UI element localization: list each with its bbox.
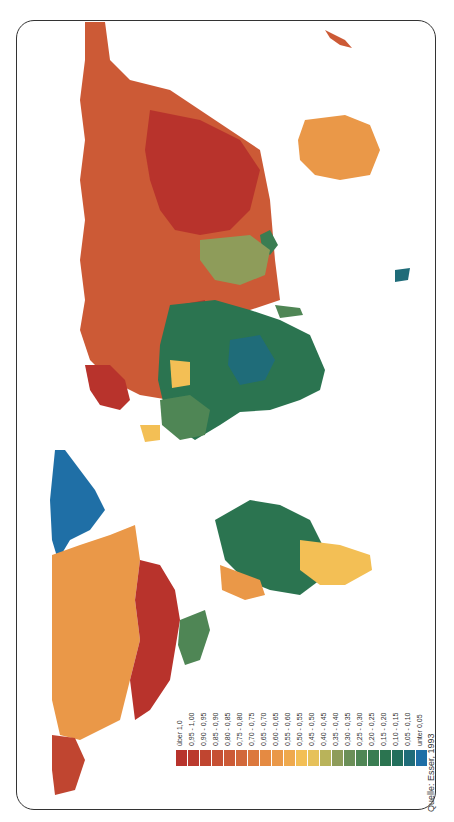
legend-swatch — [248, 750, 259, 766]
legend-swatch — [236, 750, 247, 766]
legend-label: 0,45 - 0,50 — [308, 713, 315, 746]
legend-swatch — [356, 750, 367, 766]
region-japan-islands — [325, 30, 352, 48]
legend-swatch — [284, 750, 295, 766]
legend-label: über 1,0 — [176, 720, 183, 746]
legend-swatch — [188, 750, 199, 766]
legend-swatch — [344, 750, 355, 766]
legend-swatch — [272, 750, 283, 766]
legend-swatch — [368, 750, 379, 766]
legend-label: 0,80 - 0,85 — [224, 713, 231, 746]
region-sahara — [170, 360, 190, 388]
legend-swatch — [404, 750, 415, 766]
legend-swatch — [224, 750, 235, 766]
source-caption: Quelle: Esser, 1993 — [426, 733, 436, 812]
region-new-zealand — [395, 268, 410, 282]
region-australia — [298, 115, 380, 180]
legend-label: 0,75 - 0,80 — [236, 713, 243, 746]
legend-swatch — [260, 750, 271, 766]
legend-label: 0,35 - 0,40 — [332, 713, 339, 746]
region-madagascar — [275, 305, 303, 318]
legend-label: 0,60 - 0,65 — [272, 713, 279, 746]
legend-swatch — [380, 750, 391, 766]
legend-swatch — [176, 750, 187, 766]
legend-swatch — [212, 750, 223, 766]
legend-label: 0,50 - 0,55 — [296, 713, 303, 746]
legend-label: 0,10 - 0,15 — [392, 713, 399, 746]
legend-swatch — [308, 750, 319, 766]
legend-label: 0,95 - 1,00 — [188, 713, 195, 746]
legend-label: 0,85 - 0,90 — [212, 713, 219, 746]
region-alaska — [52, 735, 85, 795]
legend-label: 0,25 - 0,30 — [356, 713, 363, 746]
legend-label: unter 0,05 — [416, 714, 423, 746]
region-arabia — [140, 425, 160, 442]
legend-label: 0,15 - 0,20 — [380, 713, 387, 746]
legend-label: 0,20 - 0,25 — [368, 713, 375, 746]
map-legend: über 1,0 0,95 - 1,00 0,90 - 0,95 0,85 - … — [176, 640, 436, 780]
legend-label: 0,40 - 0,45 — [320, 713, 327, 746]
legend-swatch — [332, 750, 343, 766]
legend-label: 0,55 - 0,60 — [284, 713, 291, 746]
legend-label: 0,70 - 0,75 — [248, 713, 255, 746]
legend-swatch — [296, 750, 307, 766]
legend-label: 0,05 - 0,10 — [404, 713, 411, 746]
legend-swatch — [200, 750, 211, 766]
legend-label: 0,30 - 0,35 — [344, 713, 351, 746]
region-canada — [52, 525, 140, 740]
legend-label: 0,65 - 0,70 — [260, 713, 267, 746]
legend-swatch — [392, 750, 403, 766]
legend-label: 0,90 - 0,95 — [200, 713, 207, 746]
legend-swatch — [320, 750, 331, 766]
